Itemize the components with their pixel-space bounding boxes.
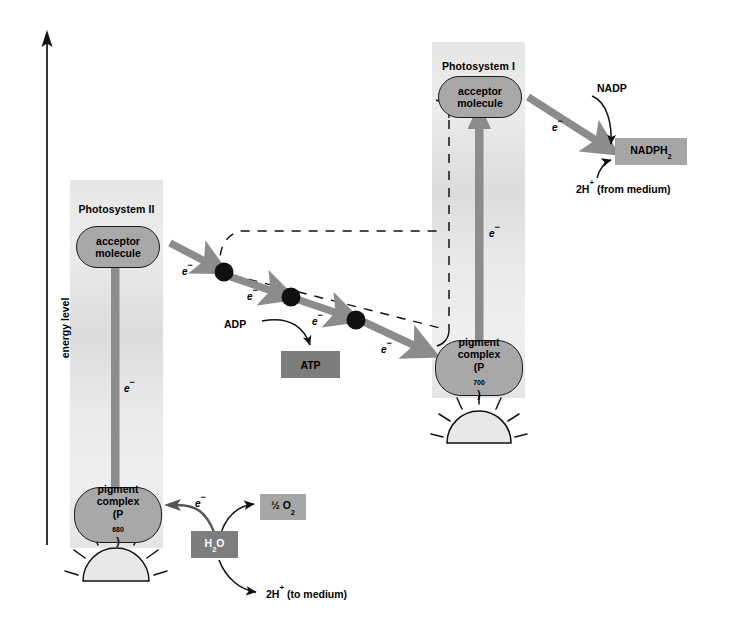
psii-pigment-line3: (P680) (97, 508, 140, 548)
psi-acceptor-line2: molecule (457, 97, 503, 110)
psi-acceptor-molecule: acceptor molecule (438, 76, 522, 118)
psi-dashed-return-line (436, 100, 449, 346)
psii-pigment-complex: pigment complex (P680) (74, 487, 162, 543)
chain-electron-label-4: e− (381, 341, 392, 355)
atp-label: ATP (300, 359, 320, 371)
psii-pigment-line1: pigment (97, 483, 140, 496)
photosystem-ii-title: Photosystem II (70, 203, 163, 215)
psi-pigment-line1: pigment (458, 336, 501, 349)
water-proton-release-label: 2H+ (to medium) (266, 586, 347, 600)
psii-internal-electron-label: e− (124, 380, 135, 394)
psi-pigment-line3: (P700) (458, 361, 501, 401)
energy-axis (42, 30, 53, 545)
psi-pigment-line2: complex (458, 348, 501, 361)
oxygen-label: ½ O2 (271, 499, 295, 514)
psi-internal-electron-label: e− (489, 225, 500, 239)
protons-to-nadph-arrow (597, 160, 611, 178)
psii-acceptor-molecule: acceptor molecule (76, 226, 160, 268)
oxygen-box: ½ O2 (260, 494, 306, 520)
carrier-dot-1 (215, 263, 234, 282)
atp-box: ATP (281, 351, 340, 378)
psi-excitation-arrow (468, 103, 492, 347)
psii-pigment-line2: complex (97, 495, 140, 508)
photosystem-i-title: Photosystem I (432, 60, 525, 72)
sun-icon-psi (431, 393, 527, 443)
psi-pigment-complex: pigment complex (P700) (435, 340, 523, 396)
electron-transport-arrows (170, 97, 605, 350)
nadp-proton-source-label: 2H+ (from medium) (576, 181, 671, 195)
nadph2-label: NADPH2 (630, 144, 672, 159)
nadph2-box: NADPH2 (615, 138, 687, 165)
psii-acceptor-line2: molecule (95, 247, 141, 260)
water-label: H2O (205, 537, 225, 552)
energy-axis-label: energy level (59, 283, 71, 373)
water-electron-label: e− (195, 495, 206, 509)
carrier-dot-3 (347, 311, 366, 330)
diagram-canvas: energy level Photosystem II acceptor mol… (0, 0, 731, 635)
nadp-electron-label: e− (552, 119, 563, 133)
psii-excitation-arrow (104, 240, 128, 490)
psi-acceptor-line1: acceptor (457, 85, 503, 98)
chain-electron-label-2: e− (247, 288, 258, 302)
chain-electron-label-3: e− (312, 313, 323, 327)
adp-to-atp-arrow (262, 320, 310, 345)
adp-label: ADP (224, 318, 246, 330)
psii-acceptor-line1: acceptor (95, 235, 141, 248)
chain-electron-label-1: e− (182, 263, 193, 277)
carrier-dot-2 (282, 288, 301, 307)
water-box: H2O (191, 531, 238, 558)
nadp-label: NADP (597, 82, 627, 94)
